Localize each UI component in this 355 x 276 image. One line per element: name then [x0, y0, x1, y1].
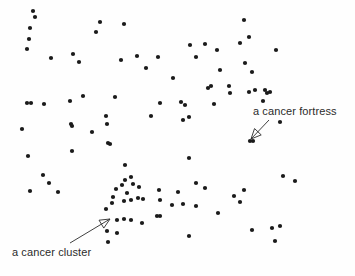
data-point — [157, 188, 161, 192]
data-point — [212, 102, 216, 106]
data-point — [98, 20, 102, 24]
data-point — [137, 185, 141, 189]
annotation-label-cancer-cluster: a cancer cluster — [12, 246, 91, 258]
data-point — [111, 195, 115, 199]
data-point — [25, 101, 29, 105]
data-point — [119, 58, 123, 62]
data-point — [26, 154, 30, 158]
data-point — [158, 101, 162, 105]
data-point — [158, 214, 162, 218]
annotation-arrow-line-cancer-cluster — [70, 219, 110, 243]
data-point — [136, 196, 140, 200]
data-point — [94, 30, 98, 34]
data-point — [68, 99, 72, 103]
data-point — [171, 76, 175, 80]
data-point — [105, 229, 109, 233]
data-point — [247, 90, 251, 94]
data-point — [203, 186, 207, 190]
annotation-arrow-line-cancer-fortress — [251, 120, 269, 139]
data-point — [49, 56, 53, 60]
data-point — [81, 94, 85, 98]
data-point — [203, 42, 207, 46]
data-point — [28, 26, 32, 30]
data-point — [227, 84, 231, 88]
data-point — [238, 200, 242, 204]
data-point — [194, 55, 198, 59]
data-point — [183, 103, 187, 107]
data-point — [158, 198, 162, 202]
data-point — [273, 239, 277, 243]
data-point — [250, 70, 254, 74]
scatter-plot-svg — [0, 0, 355, 276]
data-point — [156, 55, 160, 59]
data-point — [123, 178, 127, 182]
data-point — [250, 228, 254, 232]
data-point — [170, 203, 174, 207]
data-point — [42, 102, 46, 106]
data-point — [104, 207, 108, 211]
data-point — [216, 211, 220, 215]
data-point — [29, 101, 33, 105]
data-point — [120, 183, 124, 187]
data-point — [129, 218, 133, 222]
data-point — [129, 198, 133, 202]
data-point — [187, 234, 191, 238]
data-point — [56, 190, 60, 194]
data-point — [115, 218, 119, 222]
data-point — [238, 41, 242, 45]
data-point — [77, 60, 81, 64]
data-point — [135, 54, 139, 58]
data-point — [144, 66, 148, 70]
data-point — [70, 124, 74, 128]
data-point — [129, 175, 133, 179]
data-point — [106, 240, 110, 244]
data-point — [70, 149, 74, 153]
data-point — [228, 91, 232, 95]
data-point — [242, 18, 246, 22]
data-point — [141, 197, 145, 201]
annotation-label-cancer-fortress: a cancer fortress — [253, 105, 337, 117]
data-point-group — [20, 9, 297, 244]
annotation-arrow-group — [70, 120, 269, 243]
data-point — [181, 118, 185, 122]
data-point — [31, 9, 35, 13]
data-point — [27, 37, 31, 41]
data-point — [278, 224, 282, 228]
data-point — [278, 120, 282, 124]
data-point — [293, 179, 297, 183]
data-point — [270, 226, 274, 230]
data-point — [104, 114, 108, 118]
data-point — [149, 114, 153, 118]
data-point — [232, 194, 236, 198]
data-point — [122, 199, 126, 203]
data-point — [209, 84, 213, 88]
data-point — [274, 48, 278, 52]
scatter-figure: a cancer fortress a cancer cluster — [0, 0, 355, 276]
data-point — [125, 191, 129, 195]
data-point — [179, 100, 183, 104]
data-point — [108, 142, 112, 146]
data-point — [247, 35, 251, 39]
data-point — [114, 187, 118, 191]
data-point — [218, 68, 222, 72]
data-point — [243, 61, 247, 65]
data-point — [122, 22, 126, 26]
data-point — [115, 231, 119, 235]
data-point — [181, 202, 185, 206]
data-point — [187, 115, 191, 119]
data-point — [71, 52, 75, 56]
data-point — [25, 47, 29, 51]
data-point — [47, 181, 51, 185]
data-point — [33, 15, 37, 19]
data-point — [131, 182, 135, 186]
data-point — [281, 174, 285, 178]
data-point — [176, 190, 180, 194]
data-point — [20, 127, 24, 131]
data-point — [187, 156, 191, 160]
data-point — [113, 95, 117, 99]
data-point — [242, 188, 246, 192]
data-point — [215, 48, 219, 52]
data-point — [253, 88, 257, 92]
data-point — [268, 90, 272, 94]
data-point — [28, 189, 32, 193]
